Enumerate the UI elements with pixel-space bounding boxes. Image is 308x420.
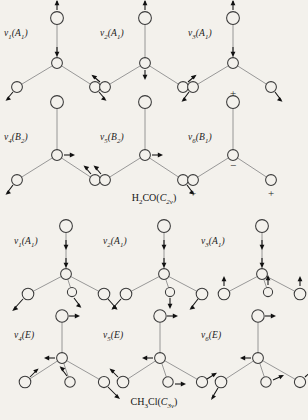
panel-h2co-v6: ν6(B1) + − + + (176, 110, 279, 205)
structure-ch3cl-v4 (0, 310, 103, 405)
vibrational-modes-figure: ν1(A1) ν2(A1) (0, 0, 308, 420)
atom-hydrogen-left (12, 175, 23, 186)
atom-oxygen (139, 96, 152, 109)
structure-ch3cl-v5 (98, 310, 201, 405)
atom-hydrogen-center (263, 287, 272, 296)
sign-plus-oxygen: + (230, 88, 236, 99)
caption-h2co: H2CO(C2v) (0, 192, 308, 206)
caption-ch3cl: CH3Cl(C3v) (0, 396, 308, 410)
atom-hydrogen-left (218, 288, 230, 300)
atom-chlorine (56, 310, 68, 322)
atom-hydrogen-center (65, 377, 75, 387)
panel-ch3cl-v3: ν3(A1) (196, 212, 299, 307)
atom-hydrogen-left (117, 376, 129, 388)
atom-hydrogen-right (266, 175, 277, 186)
structure-ch3cl-v1 (0, 212, 103, 307)
atom-carbon (52, 150, 63, 161)
atom-hydrogen-left (19, 376, 31, 388)
structure-ch3cl-v2 (98, 212, 201, 307)
atom-carbon (257, 269, 268, 280)
atom-oxygen (51, 96, 64, 109)
atom-chlorine (252, 310, 264, 322)
atom-carbon (228, 58, 239, 69)
atom-carbon (155, 353, 166, 364)
atom-hydrogen-left (188, 175, 199, 186)
atom-chlorine (154, 310, 166, 322)
atom-hydrogen-left (120, 288, 132, 300)
panel-ch3cl-v2: ν2(A1) (98, 212, 201, 307)
atom-hydrogen-right (294, 288, 306, 300)
atom-hydrogen-center (261, 377, 271, 387)
atom-chlorine (60, 220, 73, 233)
atom-hydrogen-center (67, 287, 76, 296)
structure-h2co-v3 (176, 0, 279, 95)
atom-oxygen (51, 12, 64, 25)
atom-hydrogen-left (12, 82, 23, 93)
atom-carbon (52, 58, 63, 69)
atom-carbon (57, 353, 68, 364)
atom-hydrogen-left (215, 376, 227, 388)
atom-carbon (61, 269, 72, 280)
panel-ch3cl-v1: ν1(A1) (0, 212, 103, 307)
atom-chlorine (256, 220, 269, 233)
panel-ch3cl-v4: ν4(E) (0, 310, 103, 405)
atom-hydrogen-right (266, 82, 277, 93)
atom-hydrogen-left (100, 175, 111, 186)
atom-chlorine (158, 220, 171, 233)
panel-h2co-v3: ν3(A1) (176, 0, 279, 95)
structure-ch3cl-v6 (196, 310, 299, 405)
atom-hydrogen-right (294, 376, 305, 387)
atom-oxygen (227, 12, 240, 25)
structure-ch3cl-v3 (196, 212, 299, 307)
atom-carbon (140, 150, 151, 161)
panel-ch3cl-v5: ν5(E) (98, 310, 201, 405)
atom-carbon (253, 353, 264, 364)
atom-carbon (140, 58, 151, 69)
panel-ch3cl-v6: ν6(E) (196, 310, 299, 405)
atom-carbon (159, 269, 170, 280)
atom-hydrogen-left (22, 288, 34, 300)
atom-hydrogen-left (100, 82, 111, 93)
atom-oxygen (139, 12, 152, 25)
atom-hydrogen-center (163, 377, 173, 387)
atom-hydrogen-left (188, 82, 199, 93)
sign-minus-carbon: − (230, 160, 236, 171)
atom-hydrogen-center (165, 287, 174, 296)
